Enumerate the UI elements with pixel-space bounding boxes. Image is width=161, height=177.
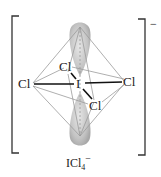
atom-cl-back: Cl — [59, 59, 72, 74]
right-bracket — [138, 19, 145, 155]
atom-cl-left: Cl — [18, 76, 31, 91]
icl4-structure-diagram: − Cl Cl I Cl Cl ICl4− — [0, 0, 161, 177]
formula-superscript: − — [85, 153, 91, 164]
charge-sign: − — [150, 17, 157, 31]
formula-label: ICl4− — [66, 153, 91, 172]
formula-subscript: 4 — [81, 163, 85, 172]
atom-i-central: I — [76, 76, 80, 91]
atom-cl-right: Cl — [123, 74, 136, 89]
atom-cl-front: Cl — [89, 98, 102, 113]
formula-base: ICl — [66, 156, 82, 170]
